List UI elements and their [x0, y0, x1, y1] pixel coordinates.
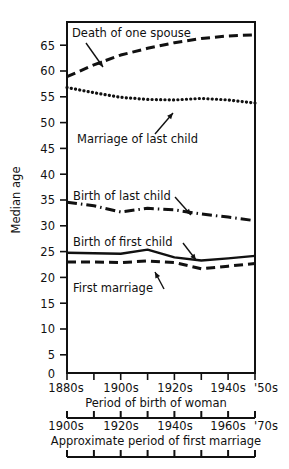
- y-tick-label-10: 10: [40, 322, 55, 336]
- y-tick-label-35: 35: [40, 193, 55, 207]
- series-arrow-first-marriage: [155, 272, 164, 289]
- series-label-birth-of-last-child: Birth of last child: [73, 189, 171, 203]
- y-tick-label-5: 5: [48, 348, 55, 362]
- x-tick-label-1900s: 1900s: [103, 381, 138, 395]
- y-axis-ticks: [60, 45, 67, 355]
- median-age-line-chart: 65 60 55 50 45 40 35 30 25 20 15 10 5 0 …: [0, 0, 289, 469]
- series-line-birth-of-first-child: [67, 250, 255, 261]
- series-label-death-of-one-spouse: Death of one spouse: [72, 26, 191, 40]
- y-tick-label-65: 65: [40, 39, 55, 53]
- series-label-marriage-of-last-child: Marriage of last child: [77, 132, 198, 146]
- secondary-tick-label-1900s: 1900s: [48, 419, 83, 433]
- secondary-axis-tick-labels: 1900s 1920s 1940s 1960s '70s: [48, 419, 278, 433]
- y-tick-label-0: 0: [48, 367, 55, 381]
- x-tick-label-50s: '50s: [254, 381, 278, 395]
- y-tick-label-15: 15: [40, 297, 55, 311]
- secondary-x-axis-title: Approximate period of first marriage: [51, 434, 261, 448]
- chart-figure: 65 60 55 50 45 40 35 30 25 20 15 10 5 0 …: [0, 0, 289, 469]
- y-tick-label-20: 20: [40, 271, 55, 285]
- x-tick-label-1940s: 1940s: [210, 381, 245, 395]
- series-label-birth-of-first-child: Birth of first child: [73, 235, 172, 249]
- x-axis-title: Period of birth of woman: [85, 396, 227, 410]
- series-line-first-marriage: [67, 261, 255, 269]
- y-tick-label-25: 25: [40, 245, 55, 259]
- y-tick-label-30: 30: [40, 219, 55, 233]
- secondary-tick-label-1920s: 1920s: [103, 419, 138, 433]
- y-axis-tick-labels: 65 60 55 50 45 40 35 30 25 20 15 10 5 0: [40, 39, 55, 381]
- secondary-tick-label-1960s: 1960s: [210, 419, 245, 433]
- y-tick-label-45: 45: [40, 142, 55, 156]
- y-axis-title: Median age: [9, 167, 23, 234]
- series-arrow-marriage-of-last-child: [155, 113, 173, 134]
- tertiary-axis: [67, 450, 255, 457]
- secondary-axis: [67, 411, 255, 418]
- y-tick-label-40: 40: [40, 168, 55, 182]
- data-series-layer: [67, 35, 255, 269]
- x-axis-tick-labels: 1880s 1900s 1920s 1940s '50s: [48, 381, 278, 395]
- x-axis-ticks: [67, 373, 255, 380]
- secondary-tick-label-1940s: 1940s: [157, 419, 192, 433]
- x-tick-label-1920s: 1920s: [157, 381, 192, 395]
- x-tick-label-1880s: 1880s: [48, 381, 83, 395]
- series-line-marriage-of-last-child: [67, 88, 255, 103]
- y-tick-label-55: 55: [40, 90, 55, 104]
- y-tick-label-60: 60: [40, 64, 55, 78]
- series-annotation-layer: Death of one spouseMarriage of last chil…: [72, 26, 198, 295]
- secondary-tick-label-70s: '70s: [254, 419, 278, 433]
- y-tick-label-50: 50: [40, 116, 55, 130]
- series-line-birth-of-last-child: [67, 202, 255, 221]
- series-label-first-marriage: First marriage: [73, 281, 153, 295]
